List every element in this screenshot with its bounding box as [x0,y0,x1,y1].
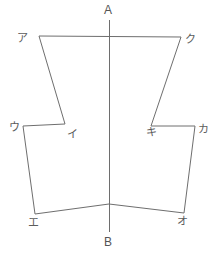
figure-canvas: A B ア ク イ キ ウ カ エ オ [0,0,220,256]
axis-label-bottom: B [104,236,112,248]
vertex-label-ka: カ [198,124,209,135]
axis-label-top: A [104,4,112,16]
vertex-label-i: イ [67,129,78,140]
edge-e-center-bottom-left [35,204,109,214]
vertex-label-ki: キ [146,127,157,138]
vertex-label-ku: ク [185,34,196,45]
edge-ku-ki-right [151,37,181,126]
vertex-label-u: ウ [9,122,20,133]
edge-center-bottom-o-right [109,204,184,213]
edge-u-e-left-side [23,126,35,214]
vertex-label-o: オ [177,216,188,227]
vertex-label-e: エ [28,217,39,228]
edge-a-i-left [39,36,65,124]
edge-u-i-shoulder-left [23,124,65,126]
edge-a-ku-top [39,36,181,37]
edge-ka-o-right-side [184,126,195,213]
vertex-label-a: ア [17,33,28,44]
